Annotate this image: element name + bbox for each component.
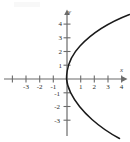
axes (4, 10, 128, 137)
y-tick-label--3: -3 (48, 117, 60, 125)
x-tick-label-2: 2 (88, 83, 100, 91)
x-axis-label: x (120, 66, 123, 74)
y-tick-label-3: 3 (50, 34, 62, 42)
graph-figure: x y -3 -2 -1 1 2 3 4 1 2 3 4 -1 -2 -3 (0, 0, 130, 142)
x-tick-label-1: 1 (75, 83, 87, 91)
coordinate-plot (0, 0, 130, 142)
x-tick-label--2: -2 (34, 83, 46, 91)
y-tick-label-1: 1 (50, 62, 62, 70)
x-axis-arrow (122, 76, 128, 82)
x-tick-label-4: 4 (116, 83, 128, 91)
y-tick-label-2: 2 (50, 48, 62, 56)
y-tick-label--1: -1 (48, 90, 60, 98)
parabola-curve (67, 15, 130, 139)
y-axis-label: y (68, 8, 71, 16)
y-tick-label-4: 4 (50, 20, 62, 28)
y-tick-label--2: -2 (48, 103, 60, 111)
x-tick-label--3: -3 (20, 83, 32, 91)
x-tick-label-3: 3 (102, 83, 114, 91)
